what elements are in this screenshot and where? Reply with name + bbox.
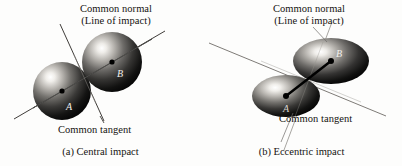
common-tangent-label-b: Common tangent <box>279 113 352 125</box>
panel-a-caption: (a) Central impact <box>0 146 201 157</box>
body-b-letter-b: B <box>117 68 123 79</box>
panel-central-impact: A B Common normal (Line of impact) Commo… <box>0 0 201 166</box>
impact-diagram-figure: A B Common normal (Line of impact) Commo… <box>0 0 402 166</box>
body-b-center-dot <box>109 59 114 64</box>
common-normal-label-line2: (Line of impact) <box>81 15 151 26</box>
body-b-letter-b: B <box>336 48 342 59</box>
panel-b-caption: (b) Eccentric impact <box>201 146 402 157</box>
common-normal-label-a: Common normal (Line of impact) <box>56 3 176 26</box>
common-tangent-label-a: Common tangent <box>58 124 131 136</box>
common-normal-label-line1: Common normal <box>273 3 345 14</box>
panel-eccentric-impact: A B Common normal (Line of impact) Commo… <box>201 0 402 166</box>
common-normal-label-line2: (Line of impact) <box>274 15 344 26</box>
body-a-center-dot <box>283 93 289 99</box>
body-b-center-dot <box>328 58 334 64</box>
body-a-letter-a: A <box>66 101 72 112</box>
body-a-center-dot <box>59 88 64 93</box>
common-normal-label-line1: Common normal <box>80 3 152 14</box>
common-normal-label-b: Common normal (Line of impact) <box>249 3 369 26</box>
